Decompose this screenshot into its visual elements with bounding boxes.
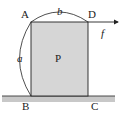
vertex-label-b: B <box>22 100 29 112</box>
vertex-label-d: D <box>88 8 96 20</box>
block-label-p: P <box>55 52 61 64</box>
vertex-label-a: A <box>21 8 29 20</box>
vertex-label-c: C <box>91 100 98 112</box>
block-diagram: A D B C b a f P <box>0 0 127 113</box>
force-label-f: f <box>101 27 106 39</box>
dimension-label-a: a <box>17 52 23 64</box>
dimension-label-b: b <box>57 5 63 17</box>
